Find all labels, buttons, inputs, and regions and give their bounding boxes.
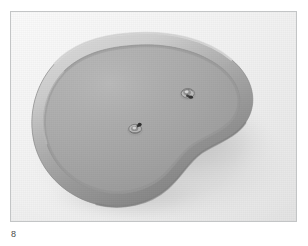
- photo-frame: [10, 11, 297, 222]
- figure-caption-number: 8: [11, 229, 16, 240]
- photograph-artwork: [11, 12, 296, 221]
- photograph: [11, 12, 296, 221]
- figure-plate: 8: [0, 0, 308, 246]
- metal-fitting-right: [180, 88, 196, 100]
